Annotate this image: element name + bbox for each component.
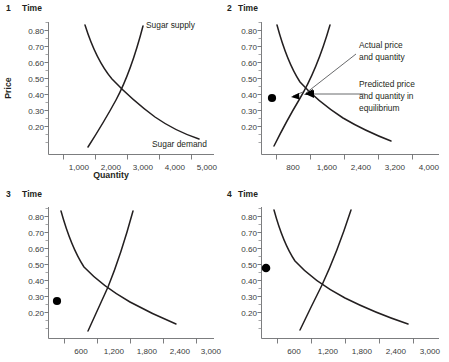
supply-curve [300,210,351,330]
supply-curve-label: Sugar supply [146,20,196,30]
x-tick-label: 1,800 [137,347,158,356]
y-tick-label: 0.60 [28,245,44,254]
demand-curve [61,211,176,324]
predicted-price-annotation-line2: and quantity in [359,91,414,101]
y-tick-label: 0.60 [241,245,257,254]
x-tick-label: 600 [287,347,301,356]
x-tick-label: 3,200 [385,163,406,172]
supply-curve [88,211,133,331]
actual-price-point [262,264,271,273]
x-tick-label: 3,000 [201,347,222,356]
x-tick-label: 1,800 [352,347,373,356]
x-tick-label: 2,400 [386,347,407,356]
panel-2-number: 2 [227,3,232,13]
sugar-market-figure: 1 Time Price 0.80 0.70 0.60 0.50 0.40 0.… [0,0,449,362]
y-tick-label: 0.30 [28,293,44,302]
y-tick-label: 0.30 [28,107,44,116]
panel-1-time-label: Time [22,3,42,13]
actual-price-annotation-line1: Actual price [359,40,403,50]
y-tick-label: 0.20 [28,123,44,132]
predicted-price-annotation-line3: equilibrium [359,103,400,113]
x-tick-label: 2,400 [170,347,191,356]
y-tick-label: 0.80 [28,213,44,222]
panel-3-number: 3 [6,189,11,199]
x-tick-label: 1,200 [104,347,125,356]
panel-1: 1 Time Price 0.80 0.70 0.60 0.50 0.40 0.… [0,0,225,181]
x-tick-label: 800 [286,163,300,172]
demand-curve-label: Sugar demand [152,139,207,149]
panel-2-plot: 0.80 0.70 0.60 0.50 0.40 0.30 0.20 [225,0,449,181]
x-axis-title: Quantity [93,170,129,180]
x-tick-label: 4,000 [419,163,440,172]
demand-curve [274,210,408,324]
y-tick-label: 0.70 [28,43,44,52]
y-tick-label: 0.70 [28,229,44,238]
y-tick-label: 0.60 [241,59,257,68]
y-tick-label: 0.20 [241,309,257,318]
y-tick-label: 0.40 [241,277,257,286]
panel-1-plot: Price 0.80 0.70 0.60 0.50 0.40 0.30 0.20 [0,0,225,181]
panel-3-plot: 0.80 0.70 0.60 0.50 0.40 0.30 0.20 [0,181,225,362]
panel-2: 2 Time 0.80 0.70 0.60 0.50 0.40 0.30 0.2… [225,0,449,181]
x-tick-label: 600 [74,347,88,356]
y-tick-label: 0.30 [241,293,257,302]
panel-1-number: 1 [6,3,11,13]
y-tick-label: 0.40 [28,91,44,100]
y-tick-label: 0.50 [241,75,257,84]
y-tick-label: 0.70 [241,229,257,238]
x-tick-label: 2,400 [351,163,372,172]
supply-curve [88,26,143,147]
y-tick-label: 0.40 [241,91,257,100]
y-tick-label: 0.50 [241,261,257,270]
y-tick-label: 0.80 [28,27,44,36]
actual-price-point [53,297,61,305]
panel-4-plot: 0.80 0.70 0.60 0.50 0.40 0.30 0.20 [225,181,449,362]
y-axis-title: Price [3,77,13,99]
y-tick-label: 0.20 [241,123,257,132]
actual-price-leader [306,54,356,93]
y-tick-label: 0.70 [241,43,257,52]
actual-point-arrowhead [291,93,300,100]
y-tick-label: 0.50 [28,75,44,84]
y-tick-label: 0.80 [241,27,257,36]
x-tick-label: 3,000 [420,347,441,356]
panel-4: 4 Time 0.80 0.70 0.60 0.50 0.40 0.30 0.2… [225,181,449,362]
y-tick-label: 0.60 [28,59,44,68]
demand-curve [85,25,199,139]
panel-4-number: 4 [227,189,232,199]
y-tick-label: 0.40 [28,277,44,286]
x-tick-label: 1,600 [317,163,338,172]
panel-3: 3 Time 0.80 0.70 0.60 0.50 0.40 0.30 0.2… [0,181,225,362]
y-tick-label: 0.80 [241,213,257,222]
actual-price-annotation-line2: and quantity [359,52,405,62]
y-tick-label: 0.20 [28,309,44,318]
panel-3-time-label: Time [22,189,42,199]
x-tick-label: 1,200 [318,347,339,356]
y-tick-label: 0.50 [28,261,44,270]
panel-2-time-label: Time [238,3,258,13]
actual-price-point [268,94,276,102]
panel-4-time-label: Time [238,189,258,199]
y-tick-label: 0.30 [241,107,257,116]
predicted-price-annotation-line1: Predicted price [359,79,415,89]
